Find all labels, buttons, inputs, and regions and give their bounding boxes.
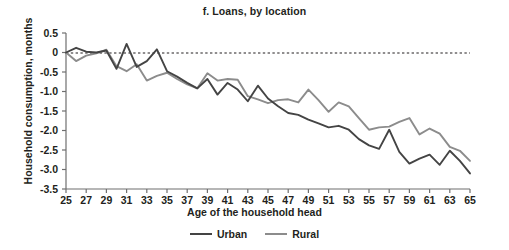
x-tick-label: 57 xyxy=(383,194,395,206)
x-tick-label: 29 xyxy=(101,194,113,206)
y-tick-label: -1.0 xyxy=(40,85,58,97)
y-tick-label: -3.5 xyxy=(40,183,58,195)
y-tick-label: -2.5 xyxy=(40,144,58,156)
y-axis-ticks: 0.50-0.5-1.0-1.5-2.0-2.5-3.0-3.5 xyxy=(40,27,66,195)
legend-label-rural: Rural xyxy=(292,228,319,240)
x-axis-ticks: 2527293133353739414345474951535557596163… xyxy=(60,189,476,206)
x-tick-label: 27 xyxy=(80,194,92,206)
y-tick-label: 0.5 xyxy=(43,27,58,39)
x-tick-label: 39 xyxy=(202,194,214,206)
series-line-rural xyxy=(66,50,470,161)
series-line-urban xyxy=(66,44,470,173)
x-tick-label: 51 xyxy=(323,194,335,206)
x-tick-label: 61 xyxy=(424,194,436,206)
y-tick-label: -1.5 xyxy=(40,105,58,117)
legend-swatch-rural xyxy=(265,233,287,236)
chart-legend: Urban Rural xyxy=(0,228,509,240)
legend-item-rural: Rural xyxy=(265,228,319,240)
chart-figure: f. Loans, by location Household consumpt… xyxy=(0,0,509,250)
x-tick-label: 33 xyxy=(141,194,153,206)
x-tick-label: 49 xyxy=(303,194,315,206)
y-tick-label: -2.0 xyxy=(40,124,58,136)
legend-item-urban: Urban xyxy=(190,228,247,240)
x-axis-title: Age of the household head xyxy=(0,206,509,218)
x-tick-label: 53 xyxy=(343,194,355,206)
x-tick-label: 31 xyxy=(121,194,133,206)
x-tick-label: 37 xyxy=(181,194,193,206)
x-tick-label: 35 xyxy=(161,194,173,206)
x-tick-label: 45 xyxy=(262,194,274,206)
legend-swatch-urban xyxy=(190,233,212,236)
x-tick-label: 55 xyxy=(363,194,375,206)
x-tick-label: 43 xyxy=(242,194,254,206)
x-tick-label: 41 xyxy=(222,194,234,206)
x-tick-label: 59 xyxy=(404,194,416,206)
x-tick-label: 63 xyxy=(444,194,456,206)
x-tick-label: 25 xyxy=(60,194,72,206)
x-tick-label: 47 xyxy=(282,194,294,206)
x-tick-label: 65 xyxy=(464,194,476,206)
y-tick-label: 0 xyxy=(52,46,58,58)
y-tick-label: -3.0 xyxy=(40,163,58,175)
y-tick-label: -0.5 xyxy=(40,66,58,78)
legend-label-urban: Urban xyxy=(217,228,247,240)
